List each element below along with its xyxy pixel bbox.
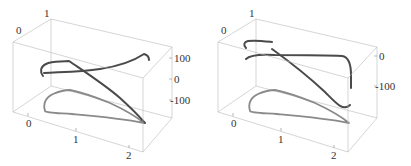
space-curve-b bbox=[44, 54, 149, 73]
axis-ticks bbox=[28, 58, 172, 148]
z-tick-0: 0 bbox=[174, 73, 180, 85]
plot3d-left: 0 1 0 1 2 100 0 -100 bbox=[0, 0, 205, 166]
plot3d-right: 0 1 0 1 2 0 -100 bbox=[205, 0, 410, 166]
z-tick-100: 100 bbox=[174, 52, 191, 64]
bounding-box-front bbox=[13, 19, 172, 152]
x-tick-2: 2 bbox=[126, 149, 132, 161]
bounding-box-front bbox=[218, 19, 377, 152]
x-tick-0: 0 bbox=[231, 117, 237, 129]
y-tick-0: 0 bbox=[16, 24, 22, 36]
x-tick-2: 2 bbox=[331, 149, 337, 161]
y-tick-1: 1 bbox=[249, 7, 255, 19]
x-tick-1: 1 bbox=[73, 133, 79, 145]
y-tick-0: 0 bbox=[221, 24, 227, 36]
space-curve-a bbox=[244, 41, 272, 48]
z-tick-minus-100: -100 bbox=[375, 80, 396, 92]
plot-left: 0 1 0 1 2 100 0 -100 bbox=[0, 0, 205, 166]
space-curve-c bbox=[246, 55, 351, 88]
plot-right: 0 1 0 1 2 0 -100 bbox=[205, 0, 410, 166]
x-tick-1: 1 bbox=[278, 133, 284, 145]
space-curve-b bbox=[272, 49, 350, 107]
bounding-box-back bbox=[13, 19, 172, 118]
z-tick-0: 0 bbox=[379, 50, 385, 62]
y-tick-1: 1 bbox=[44, 7, 50, 19]
x-tick-0: 0 bbox=[26, 117, 32, 129]
z-tick-minus-100: -100 bbox=[170, 94, 191, 106]
